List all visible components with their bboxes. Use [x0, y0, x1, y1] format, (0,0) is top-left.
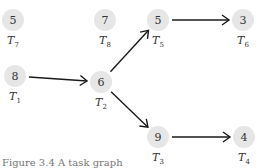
- node-t7: 5T7: [2, 9, 24, 49]
- edges-layer: [29, 15, 230, 142]
- edge-t1-t2: [29, 76, 87, 86]
- node-label: T2: [95, 96, 107, 111]
- figure-caption: Figure 3.4 A task graph: [2, 157, 123, 168]
- task-graph: 8T16T29T34T45T53T65T77T8: [0, 0, 266, 168]
- node-weight: 5: [155, 14, 162, 27]
- node-label: T6: [237, 34, 249, 49]
- node-t2: 6T2: [90, 71, 112, 111]
- node-weight: 5: [10, 14, 17, 27]
- node-label: T1: [9, 90, 21, 105]
- node-t5: 5T5: [147, 9, 169, 49]
- node-label: T3: [152, 151, 164, 166]
- edge-line: [29, 77, 87, 81]
- node-weight: 6: [98, 76, 105, 89]
- node-label: T8: [99, 34, 111, 49]
- node-t4: 4T4: [233, 126, 255, 166]
- edge-t5-t6: [172, 15, 229, 25]
- node-t3: 9T3: [147, 126, 169, 166]
- node-weight: 3: [240, 14, 247, 27]
- node-weight: 8: [12, 70, 19, 83]
- node-t6: 3T6: [232, 9, 254, 49]
- node-label: T4: [238, 151, 250, 166]
- node-weight: 9: [155, 131, 162, 144]
- edge-t2-t3: [111, 92, 148, 128]
- node-t8: 7T8: [94, 9, 116, 49]
- node-label: T5: [152, 34, 164, 49]
- node-label: T7: [7, 34, 19, 49]
- nodes-layer: 8T16T29T34T45T53T65T77T8: [2, 9, 255, 166]
- node-t1: 8T1: [4, 65, 26, 105]
- edge-t2-t5: [110, 30, 148, 71]
- node-weight: 7: [102, 14, 109, 27]
- edge-line: [110, 30, 148, 71]
- edge-line: [111, 92, 148, 128]
- node-weight: 4: [241, 131, 248, 144]
- edge-t3-t4: [172, 132, 230, 142]
